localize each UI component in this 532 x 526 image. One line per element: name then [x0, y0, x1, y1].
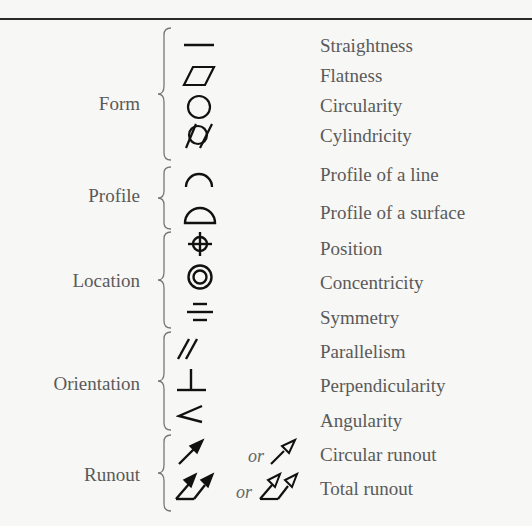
top-rule: [0, 18, 532, 20]
perpendicularity-icon: [175, 366, 209, 394]
name-total-runout: Total runout: [320, 478, 413, 500]
profile-surface-icon: [182, 202, 218, 226]
angularity-icon: [176, 403, 206, 425]
name-perpendicularity: Perpendicularity: [320, 375, 446, 397]
name-flatness: Flatness: [320, 65, 382, 87]
position-icon: [186, 230, 214, 258]
brace-profile-icon: [155, 165, 175, 231]
symmetry-icon: [184, 300, 216, 324]
brace-orientation-icon: [155, 330, 175, 432]
concentricity-icon: [185, 262, 215, 292]
or-label-total: or: [236, 482, 252, 502]
name-cylindricity: Cylindricity: [320, 125, 412, 147]
profile-line-icon: [182, 167, 216, 189]
circular-runout-icon: [176, 437, 206, 467]
name-profile-surface: Profile of a surface: [320, 202, 465, 224]
name-angularity: Angularity: [320, 410, 402, 432]
name-circular-runout: Circular runout: [320, 444, 437, 466]
category-location-label: Location: [0, 270, 140, 292]
circularity-icon: [183, 93, 215, 121]
name-profile-line: Profile of a line: [320, 164, 439, 186]
name-circularity: Circularity: [320, 95, 402, 117]
brace-location-icon: [155, 230, 175, 330]
straightness-icon: [182, 40, 216, 50]
circular-runout-open-icon: [268, 437, 298, 467]
name-straightness: Straightness: [320, 35, 413, 57]
total-runout-open-icon: [256, 470, 300, 502]
name-symmetry: Symmetry: [320, 307, 399, 329]
cylindricity-icon: [182, 120, 216, 150]
parallelism-icon: [176, 336, 202, 362]
or-label-circular: or: [248, 446, 264, 466]
category-orientation-label: Orientation: [0, 373, 140, 395]
brace-form-icon: [155, 26, 175, 162]
name-parallelism: Parallelism: [320, 341, 405, 363]
category-profile-label: Profile: [0, 185, 140, 207]
name-concentricity: Concentricity: [320, 272, 423, 294]
category-form-label: Form: [0, 93, 140, 115]
name-position: Position: [320, 238, 382, 260]
flatness-icon: [182, 64, 216, 88]
category-runout-label: Runout: [0, 464, 140, 486]
total-runout-icon: [172, 470, 216, 502]
